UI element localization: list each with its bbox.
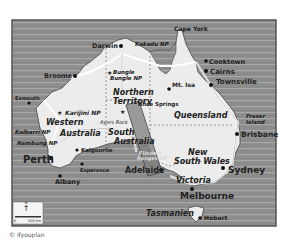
feature-fraser-island-2: Island [246, 119, 265, 125]
city-melbourne: Melbourne [180, 191, 234, 201]
state-south-australia: South [108, 128, 135, 137]
city-hobart: Hobart [204, 214, 227, 221]
city-adelaide: Adelaide [125, 166, 165, 175]
australia-map: Western Australia Northern Territory Sou… [0, 0, 283, 245]
state-western-australia: Western [46, 118, 84, 127]
city-brisbane: Brisbane [241, 130, 278, 139]
north-arrow-icon: ↑ [23, 204, 30, 213]
state-tasmanien: Tasmanien [146, 209, 194, 218]
city-sydney: Sydney [228, 165, 265, 175]
state-northern-territory: Northern [113, 88, 154, 97]
city-esperance: Esperance [80, 167, 110, 174]
city-broome: Broome [44, 72, 73, 80]
scale-legend: ↑ N 0 500 km [13, 201, 43, 224]
park-nambung: Nambung NP [17, 140, 57, 147]
park-ayers-rock: Ayers Rock [99, 119, 129, 126]
park-kakadu: Kakadu NP [135, 41, 169, 47]
park-karijini: Karijini NP [65, 109, 101, 117]
park-bungle-bungle-2: Bungle NP [110, 75, 142, 82]
state-queensland: Queensland [174, 111, 228, 120]
city-kalgoorlie: Kalgoorlie [81, 147, 113, 154]
scale-end: 500 km [28, 219, 42, 223]
state-south-australia-2: Australia [113, 137, 155, 146]
city-cairns: Cairns [210, 68, 235, 76]
park-flinders-ranges-2: Ranges NP [137, 155, 168, 162]
feature-cape-york: Cape York [174, 25, 209, 33]
state-new-south-wales: New [188, 148, 208, 157]
state-new-south-wales-2: South Wales [174, 157, 230, 166]
state-victoria: Victoria [176, 176, 211, 185]
city-darwin: Darwin [92, 42, 118, 50]
city-mt-isa: Mt. Isa [172, 81, 195, 88]
city-perth: Perth [23, 154, 54, 165]
scale-start: 0 [14, 219, 16, 223]
star-icon: ★ [120, 108, 125, 115]
city-townsville: Townsville [216, 78, 257, 86]
city-albany: Albany [55, 178, 81, 186]
star-icon: ★ [57, 109, 62, 116]
city-alice-springs: Alice Springs [138, 101, 179, 108]
city-cooktown: Cooktown [209, 58, 246, 66]
park-kalbarri: Kalbarri NP [15, 129, 50, 135]
north-label: N [25, 201, 28, 205]
city-exmouth: Exmouth [15, 95, 40, 101]
copyright-text: © ifyouplan [9, 231, 45, 238]
state-western-australia-2: Australia [59, 129, 101, 138]
